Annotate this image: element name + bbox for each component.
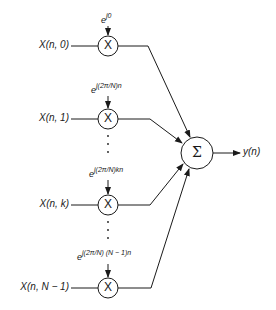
multiplier-glyph-0: X <box>98 38 118 52</box>
sum-glyph: Σ <box>185 144 209 160</box>
path-k-to-sum <box>118 164 183 205</box>
multiplier-glyph-k: X <box>98 197 118 211</box>
multiplier-glyph-1: X <box>98 111 118 125</box>
input-label-n-1: X(n, N − 1) <box>1 281 69 292</box>
input-label-0: X(n, 0) <box>1 39 69 50</box>
output-label: y(n) <box>243 146 260 157</box>
path-1-to-sum <box>118 119 182 143</box>
path-0-to-sum <box>118 46 190 137</box>
exp-label-k: ej(2π/N)kn <box>89 166 123 179</box>
exp-label-0: ej0 <box>101 12 111 25</box>
path-n-1-to-sum <box>118 169 189 288</box>
exp-label-1: ej(2π/N)n <box>91 82 122 95</box>
input-label-k: X(n, k) <box>1 198 69 209</box>
multiplier-glyph-n-1: X <box>98 280 118 294</box>
exp-label-n-1: ej(2π/N) (N − 1)n <box>77 249 131 262</box>
input-label-1: X(n, 1) <box>1 112 69 123</box>
